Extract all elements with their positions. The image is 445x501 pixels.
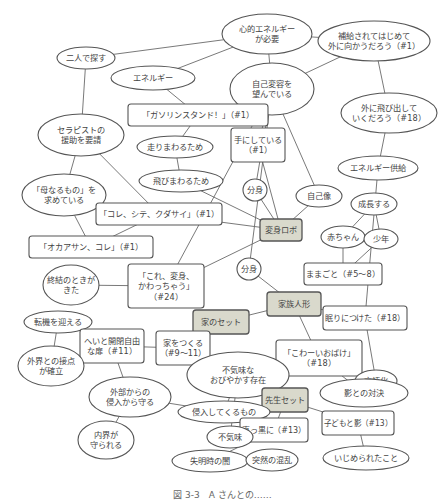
node-label: が必要 (255, 34, 279, 44)
node-label: 外部からの (110, 387, 150, 397)
node-label: 自己変容を (252, 79, 292, 89)
node-label: 望んでいる (252, 89, 292, 99)
node-energy: エネルギー (111, 66, 195, 90)
node-label: 求めている (44, 195, 84, 205)
node-label: 分身 (247, 185, 263, 195)
node-label: 終結のときが (47, 275, 95, 285)
node-therapist: セラピストの援助を要請 (38, 114, 124, 156)
node-layer: 心的エネルギーが必要補給されてはじめて外に向かうだろう（#1）二人で探すエネルギ… (18, 14, 437, 472)
node-okaasan: 「オカアサン、コレ」（#1） (29, 236, 153, 258)
node-label: へいと開閉自由 (84, 336, 140, 346)
node-label: 少年 (373, 234, 389, 244)
node-kowai: 「こわーいおばけ」（#18） (276, 340, 362, 376)
node-label: 補給されてはじめて (338, 31, 410, 41)
node-label: （#24） (149, 292, 182, 302)
node-gasoline: 「ガソリンスタンド！」（#1） (128, 104, 268, 126)
node-label: 失明時の闇 (190, 456, 230, 466)
node-kore_shite: 「コレ、シテ、クダサイ」（#1） (96, 203, 222, 225)
node-gaibu: 外部からの侵入から守る (89, 377, 171, 417)
node-label: 「オカアサン、コレ」（#1） (39, 242, 143, 252)
node-ie_set: 家のセット (193, 310, 249, 334)
node-label: 外界との接点 (27, 356, 75, 366)
node-label: エネルギー (133, 73, 173, 83)
node-label: 家をつくる (163, 338, 203, 348)
node-bunshin1: 分身 (243, 179, 267, 201)
node-label: いじめられたこと (334, 453, 398, 463)
node-label: 突然の混乱 (252, 455, 292, 465)
node-label: 転機を迎える (34, 317, 82, 327)
node-tobi: 飛びまわるため (139, 170, 223, 192)
node-bukimi: 不気味 (207, 426, 253, 448)
node-label: 「ガソリンスタンド！」（#1） (142, 110, 254, 120)
node-label: 眠りにつけた（#18） (325, 313, 405, 323)
node-label: かわっちゃう」 (138, 281, 194, 291)
node-label: 心的エネルギー (239, 24, 295, 34)
node-label: 二人で探す (66, 53, 106, 63)
node-label: 変身ロボ (265, 225, 297, 235)
node-haha: 「母なるもの」を求めている (22, 174, 106, 216)
node-label: エネルギー供給 (350, 163, 407, 173)
node-label: な扉（#11） (87, 346, 136, 356)
node-label: 「母なるもの」を (32, 185, 96, 195)
node-label: 家族人形 (278, 299, 310, 309)
node-ijime: いじめられたこと (323, 446, 409, 470)
node-label: 侵入から守る (106, 397, 154, 407)
node-label: 走りまわるため (147, 142, 203, 152)
node-kazoku: 家族人形 (267, 292, 321, 316)
node-soto_tobidashi: 外に飛び出していくだろう（#18） (341, 93, 437, 133)
node-kage_taiketsu: 影との対決 (320, 379, 408, 407)
node-label: 不気味な (222, 365, 254, 375)
node-label: 外に飛び出して (361, 103, 417, 113)
node-label: 援助を要請 (61, 135, 101, 145)
node-label: 守られる (90, 440, 122, 450)
node-label: （#1） (244, 145, 272, 155)
node-label: 手にしている (234, 135, 282, 145)
node-label: セラピストの (57, 125, 105, 135)
node-label: 先生セット (265, 395, 305, 405)
node-label: 侵入してくるもの (192, 407, 256, 417)
node-gaikai: 外界との接点が確立 (18, 346, 84, 386)
node-kokoro_energy: 心的エネルギーが必要 (222, 14, 312, 54)
node-label: 「こわーいおばけ」 (283, 348, 355, 358)
node-hei: へいと開閉自由な扉（#11） (80, 329, 144, 363)
node-shitsumei: 失明時の闇 (172, 450, 248, 472)
node-label: 自己像 (307, 191, 331, 201)
node-te_ni: 手にしている（#1） (231, 128, 285, 162)
node-seicho: 成長する (351, 193, 397, 215)
node-nemuri: 眠りにつけた（#18） (323, 306, 407, 330)
node-naikai: 内界が守られる (78, 421, 134, 459)
node-bunshin2: 分身 (237, 258, 261, 280)
node-kore_henshin: 「これ、変身、かわっちゃう」（#24） (128, 264, 204, 308)
node-label: 「コレ、シテ、クダサイ」（#1） (99, 209, 219, 219)
node-label: （#9～11） (160, 348, 207, 358)
node-label: （#18） (302, 358, 335, 368)
node-label: 成長する (358, 199, 390, 209)
node-label: 赤ちゃん (327, 232, 359, 242)
node-shuketsu: 終結のときがきた (43, 265, 99, 305)
node-label: 飛びまわるため (153, 176, 209, 186)
node-label: ままごと（#5～8） (306, 269, 379, 279)
node-label: 外に向かうだろう（#1） (328, 41, 420, 51)
node-label: 「これ、変身、 (138, 271, 194, 281)
node-energy_kyokyu: エネルギー供給 (338, 156, 418, 180)
node-label: 内界が (94, 430, 118, 440)
node-futari: 二人で探す (57, 47, 115, 69)
node-henshin_robo: 変身ロボ (260, 219, 302, 241)
node-akachan: 赤ちゃん (321, 226, 365, 248)
node-label: が確立 (39, 366, 63, 376)
node-mamagoto: ままごと（#5～8） (304, 263, 382, 285)
node-totsuzen: 突然の混乱 (246, 449, 298, 471)
node-hokyu: 補給されてはじめて外に向かうだろう（#1） (318, 21, 430, 61)
node-label: 分身 (241, 264, 257, 274)
node-label: おびやかす存在 (210, 375, 266, 385)
node-label: 不気味 (218, 432, 242, 442)
node-kodomo_kage: 子どもと影（#13） (322, 411, 394, 435)
node-label: 子どもと影（#13） (324, 418, 392, 428)
figure-caption: 図 3-3 A さんとの…… (0, 488, 445, 501)
node-shonen: 少年 (364, 229, 398, 249)
node-label: いくだろう（#18） (352, 113, 425, 123)
node-sensei: 先生セット (262, 388, 308, 412)
node-jikozo: 自己像 (296, 185, 342, 207)
node-hashiri: 走りまわるため (137, 136, 213, 158)
